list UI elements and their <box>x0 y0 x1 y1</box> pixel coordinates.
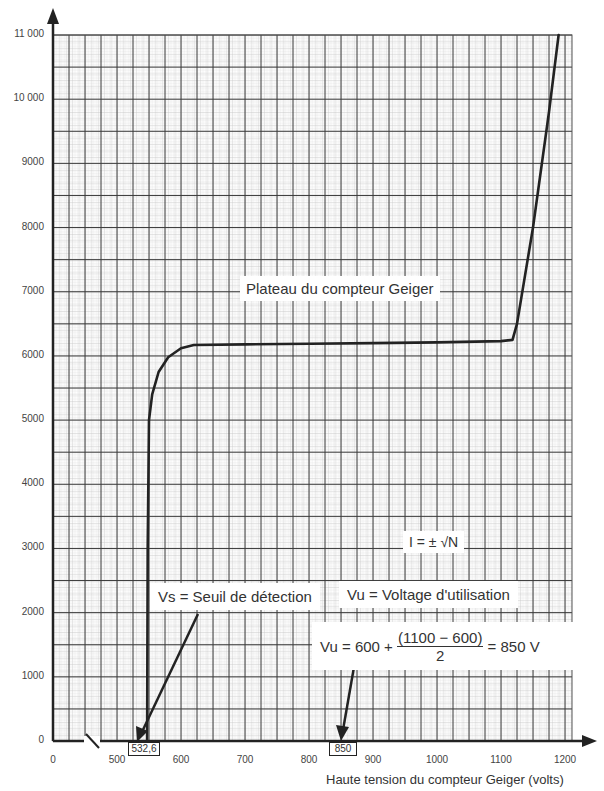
x-tick-label: 1000 <box>417 754 457 765</box>
x-tick-label: 800 <box>289 754 329 765</box>
x-tick-label: 1100 <box>481 754 521 765</box>
x-tick-label: 900 <box>353 754 393 765</box>
formula-left: Vu = 600 + <box>320 638 397 655</box>
vu-value-box: 850 <box>329 742 357 756</box>
y-tick-label: 10 000 <box>0 92 44 103</box>
y-tick-label: 4000 <box>0 477 44 488</box>
y-tick-label: 1000 <box>0 670 44 681</box>
y-tick-label: 0 <box>0 734 44 745</box>
vu-definition-label: Vu = Voltage d'utilisation <box>339 581 518 608</box>
vs-value-box: 532,6 <box>128 742 160 756</box>
axis-break-mark <box>84 734 100 748</box>
y-tick-label: 6000 <box>0 349 44 360</box>
formula-numerator: (1100 − 600) <box>397 629 483 647</box>
x-tick-label: 600 <box>161 754 201 765</box>
plateau-label: Plateau du compteur Geiger <box>240 276 440 301</box>
x-tick-label: 0 <box>33 754 73 765</box>
vu-formula: Vu = 600 + (1100 − 600) 2 = 850 V <box>312 622 598 670</box>
x-axis-label: Haute tension du compteur Geiger (volts) <box>326 772 564 787</box>
geiger-plateau-chart <box>0 0 604 791</box>
y-tick-label: 9000 <box>0 156 44 167</box>
x-tick-label: 1200 <box>545 754 585 765</box>
y-tick-label: 7000 <box>0 285 44 296</box>
x-tick-label: 700 <box>225 754 265 765</box>
formula-right: = 850 V <box>483 638 539 655</box>
y-tick-label: 3000 <box>0 541 44 552</box>
uncertainty-label: I = ± √N <box>403 531 464 553</box>
y-tick-label: 8000 <box>0 221 44 232</box>
vs-definition-label: Vs = Seuil de détection <box>150 583 320 610</box>
y-tick-label: 2000 <box>0 606 44 617</box>
y-tick-label: 5000 <box>0 413 44 424</box>
formula-denominator: 2 <box>397 647 483 664</box>
formula-fraction: (1100 − 600) 2 <box>397 629 483 664</box>
y-tick-label: 11 000 <box>0 28 44 39</box>
